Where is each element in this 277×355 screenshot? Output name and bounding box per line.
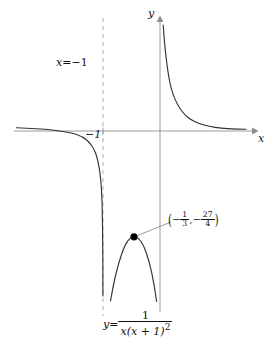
function-graph — [0, 0, 277, 355]
function-equation-label: y=1x(x + 1)2 — [103, 311, 172, 339]
point-y-numerator: 27 — [201, 211, 215, 219]
point-open-paren: ( — [168, 212, 172, 228]
point-close-paren: ) — [215, 212, 219, 228]
point-y-denominator: 4 — [201, 219, 215, 228]
equation-fraction: 1x(x + 1)2 — [118, 310, 172, 338]
maximum-point-label: (−13,−274) — [168, 212, 219, 229]
asymptote-label: x=−1 — [56, 57, 88, 68]
point-x-numerator: 1 — [180, 211, 189, 219]
x-tick-label-neg1: −1 — [85, 129, 101, 140]
maximum-point-marker — [130, 233, 137, 240]
curve-branch-right — [163, 25, 246, 129]
equation-denominator: x(x + 1)2 — [118, 321, 172, 337]
point-leader-line — [138, 222, 172, 236]
x-axis-label: x — [258, 133, 264, 144]
curve-branch-left — [17, 128, 103, 296]
y-axis — [157, 16, 164, 313]
point-y-fraction: 274 — [201, 211, 215, 228]
point-x-sign: − — [172, 214, 180, 225]
y-axis-label: y — [148, 8, 154, 19]
asymptote-label-value: −1 — [71, 56, 87, 69]
point-y-sign: − — [192, 214, 200, 225]
equation-denominator-rest: (x + 1) — [127, 325, 165, 338]
equation-denominator-exponent: 2 — [165, 321, 171, 332]
equation-equals: = — [109, 318, 118, 331]
point-x-fraction: 13 — [180, 211, 189, 228]
y-axis-arrowhead — [157, 16, 164, 23]
point-x-denominator: 3 — [180, 219, 189, 228]
equation-numerator: 1 — [118, 310, 172, 322]
curve-branch-middle — [111, 237, 157, 302]
